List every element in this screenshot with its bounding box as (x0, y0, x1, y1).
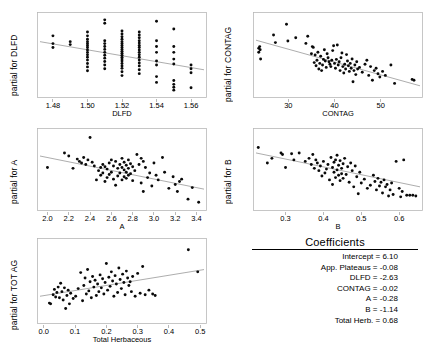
figure-panel-grid: partial for DLFD 1.481.501.521.541.56 DL… (0, 0, 428, 356)
coefficient-row: Intercept = 6.10 (246, 252, 424, 263)
coefficient-row: B = -1.14 (246, 305, 424, 316)
scatter-canvas-dlfd (37, 12, 207, 98)
plot-partial-contag: partial for CONTAG 304050 CONTAG (214, 4, 428, 120)
data-points-contag (257, 23, 415, 85)
x-axis-label-b: B (253, 222, 423, 231)
plot-partial-totag: partial for TOT AG 0.00.10.20.30.40.5 To… (0, 236, 214, 356)
plot-partial-a: partial for A 2.02.22.42.62.83.03.23.4 A (0, 122, 214, 234)
coefficients-rows: Intercept = 6.10App. Plateaus = -0.08DLF… (246, 252, 424, 326)
coefficient-row: App. Plateaus = -0.08 (246, 263, 424, 274)
data-points-dlfd (52, 18, 193, 91)
x-axis-label-totag: Total Herbaceous (37, 335, 207, 344)
y-axis-label-a: partial for A (9, 144, 19, 204)
data-points-b (257, 146, 417, 198)
x-axis-label-contag: CONTAG (253, 109, 423, 118)
coefficient-row: A = -0.28 (246, 294, 424, 305)
y-axis-label-dlfd: partial for DLFD (9, 16, 19, 96)
x-axis-label-dlfd: DLFD (37, 109, 207, 118)
plot-partial-b: partial for B 0.30.40.50.6 B (214, 122, 428, 234)
fit-line-contag (256, 40, 420, 86)
scatter-canvas-contag (253, 12, 423, 98)
plot-partial-dlfd: partial for DLFD 1.481.501.521.541.56 DL… (0, 4, 214, 120)
coefficients-divider (252, 249, 418, 250)
data-points-totag (48, 248, 199, 310)
coefficient-row: CONTAG = -0.02 (246, 284, 424, 295)
scatter-canvas-totag (37, 238, 207, 324)
scatter-canvas-b (253, 128, 423, 211)
y-axis-label-b: partial for B (223, 144, 233, 204)
scatter-canvas-a (37, 128, 207, 211)
coefficients-table: Coefficients Intercept = 6.10App. Platea… (246, 236, 424, 326)
coefficient-row: DLFD = -2.63 (246, 273, 424, 284)
x-axis-label-a: A (37, 222, 207, 231)
coefficients-title: Coefficients (246, 236, 424, 249)
data-points-a (46, 136, 200, 204)
fit-line-a (40, 156, 204, 189)
y-axis-label-contag: partial for CONTAG (223, 10, 233, 102)
y-axis-label-totag: partial for TOT AG (9, 244, 19, 330)
coefficient-row: Total Herb. = 0.68 (246, 316, 424, 327)
